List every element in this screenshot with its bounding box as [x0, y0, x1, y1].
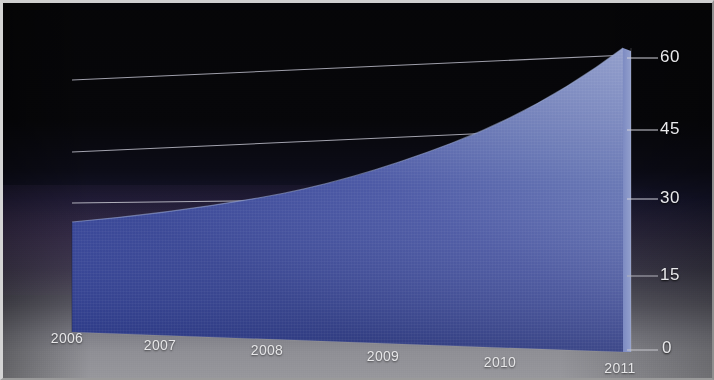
y-tick-label-30: 30: [660, 188, 680, 208]
x-tick-label-2009: 2009: [367, 348, 399, 364]
area-end-cap: [623, 48, 631, 352]
x-tick-label-2008: 2008: [251, 342, 283, 358]
x-tick-label-2011: 2011: [604, 360, 635, 376]
gridline-60: [72, 55, 628, 80]
x-tick-label-2010: 2010: [484, 354, 516, 370]
x-tick-label-2006: 2006: [51, 330, 83, 346]
y-tick-label-60: 60: [660, 47, 680, 67]
area-chart-plot: [0, 0, 714, 380]
x-tick-label-2007: 2007: [144, 337, 176, 353]
y-tick-label-45: 45: [660, 119, 680, 139]
y-tick-label-0: 0: [662, 338, 672, 358]
area-series: [60, 40, 640, 360]
area-texture: [60, 40, 640, 360]
y-tick-label-15: 15: [660, 265, 680, 285]
y-axis: [627, 48, 658, 352]
chart-screenshot: 60 45 30 15 0 2006 2007 2008 2009 2010 2…: [0, 0, 714, 380]
